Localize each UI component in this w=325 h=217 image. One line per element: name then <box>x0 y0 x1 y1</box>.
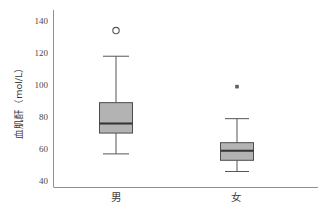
box-rect-male <box>100 103 133 133</box>
outlier-point-female <box>235 85 239 89</box>
plot-area <box>0 0 325 217</box>
boxplot-female <box>221 85 254 172</box>
boxplot-chart: 血肌酐（mol/L） 140 120 100 80 60 40 男 女 <box>0 0 325 217</box>
outlier-point-male <box>113 27 119 33</box>
boxplot-male <box>100 27 133 153</box>
